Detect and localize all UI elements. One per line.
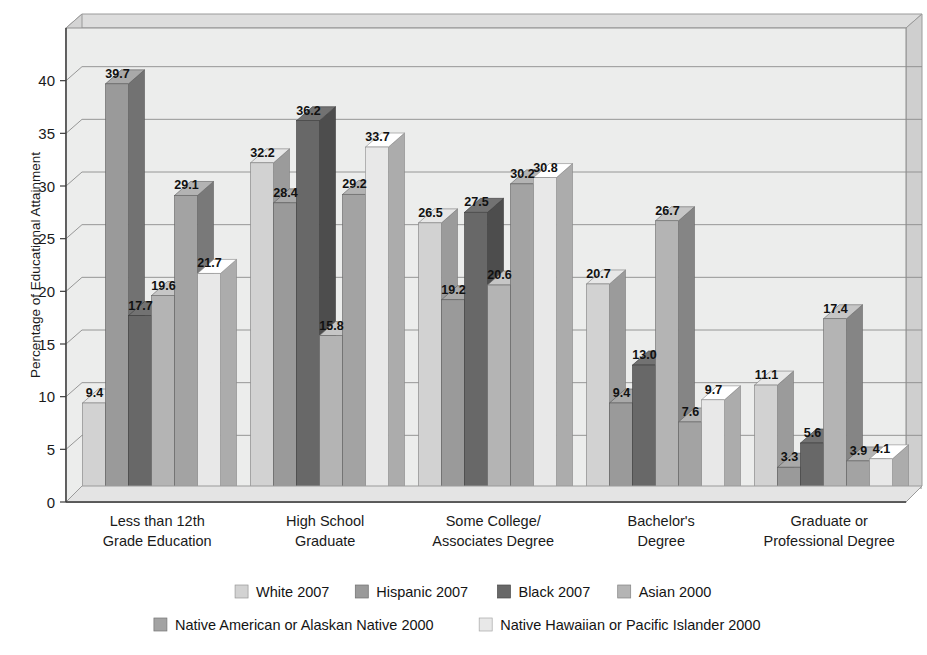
y-axis-title: Percentage of Educational Attainment xyxy=(28,152,43,378)
category-label-line: Professional Degree xyxy=(764,533,895,549)
bar-value-label: 17.4 xyxy=(823,302,847,316)
bar-value-label: 30.8 xyxy=(533,161,557,175)
bar xyxy=(198,259,237,502)
bar-side-face xyxy=(221,259,237,502)
legend-label: White 2007 xyxy=(256,584,329,600)
legend-swatch xyxy=(618,585,631,598)
category-label-line: Graduate xyxy=(295,533,355,549)
legend-label: Black 2007 xyxy=(518,584,590,600)
bar-front-face xyxy=(755,385,778,502)
bar-value-label: 4.1 xyxy=(873,442,890,456)
y-axis-tick-label: 35 xyxy=(38,125,55,142)
bar-value-label: 3.9 xyxy=(850,444,867,458)
educational-attainment-bar-chart: 0510152025303540 Percentage of Education… xyxy=(0,0,927,655)
bar-value-label: 36.2 xyxy=(296,104,320,118)
category-label-line: High School xyxy=(286,513,364,529)
bar-front-face xyxy=(465,212,488,502)
category-label-line: Associates Degree xyxy=(432,533,554,549)
bar-value-label: 7.6 xyxy=(682,405,699,419)
legend-swatch xyxy=(355,585,368,598)
bar-value-label: 26.5 xyxy=(418,206,442,220)
chart-canvas: 0510152025303540 Percentage of Education… xyxy=(0,0,927,655)
bar-front-face xyxy=(633,365,656,502)
bar-value-label: 29.1 xyxy=(174,178,198,192)
category-label-line: Degree xyxy=(637,533,685,549)
y-axis-tick-label: 5 xyxy=(47,441,55,458)
bar xyxy=(366,133,405,502)
plot-floor-face xyxy=(66,486,922,502)
bar-value-label: 30.2 xyxy=(510,167,534,181)
category-label-line: Less than 12th xyxy=(110,513,205,529)
category-label-line: Grade Education xyxy=(103,533,212,549)
category-label-line: Bachelor's xyxy=(628,513,695,529)
bar-value-label: 3.3 xyxy=(781,450,798,464)
plot-wall-top-face xyxy=(66,14,922,28)
bar-front-face xyxy=(274,203,297,502)
legend-label: Asian 2000 xyxy=(639,584,712,600)
legend-label: Native Hawaiian or Pacific Islander 2000 xyxy=(500,617,760,633)
bar-front-face xyxy=(488,285,511,502)
bar-front-face xyxy=(251,163,274,502)
bar-value-label: 5.6 xyxy=(804,426,821,440)
legend-item[interactable]: Native American or Alaskan Native 2000 xyxy=(154,617,434,633)
bar-front-face xyxy=(511,184,534,502)
bar xyxy=(702,386,741,502)
bar-value-label: 9.4 xyxy=(86,386,103,400)
bar-side-face xyxy=(557,164,573,502)
bar-front-face xyxy=(198,273,221,502)
bar-front-face xyxy=(297,121,320,502)
bar-front-face xyxy=(366,147,389,502)
category-label-line: Graduate or xyxy=(791,513,869,529)
bar-front-face xyxy=(175,195,198,502)
y-axis-tick-label: 40 xyxy=(38,72,55,89)
bar-value-label: 21.7 xyxy=(197,256,221,270)
bar-value-label: 9.4 xyxy=(613,386,630,400)
legend-swatch xyxy=(497,585,510,598)
bar-side-face xyxy=(389,133,405,502)
bar-value-label: 20.6 xyxy=(487,268,511,282)
bar-value-label: 26.7 xyxy=(655,204,679,218)
legend-item[interactable]: Native Hawaiian or Pacific Islander 2000 xyxy=(479,617,760,633)
bar-front-face xyxy=(442,300,465,502)
bar-value-label: 27.5 xyxy=(464,195,488,209)
bar-value-label: 20.7 xyxy=(586,267,610,281)
bar-value-label: 32.2 xyxy=(250,146,274,160)
y-axis-tick-label: 10 xyxy=(38,388,55,405)
legend-swatch xyxy=(235,585,248,598)
bar-value-label: 33.7 xyxy=(365,130,389,144)
bar-front-face xyxy=(129,316,152,502)
bar-side-face xyxy=(725,386,741,502)
legend-swatch xyxy=(154,618,167,631)
bar-front-face xyxy=(587,284,610,502)
y-axis-tick-label: 0 xyxy=(47,494,55,511)
bar-value-label: 15.8 xyxy=(319,319,343,333)
bar-value-label: 29.2 xyxy=(342,177,366,191)
bar-value-label: 13.0 xyxy=(632,348,656,362)
bar xyxy=(534,164,573,502)
bar-value-label: 17.7 xyxy=(128,299,152,313)
bar-value-label: 28.4 xyxy=(273,186,297,200)
bar-front-face xyxy=(656,221,679,502)
bar-front-face xyxy=(152,296,175,502)
category-label-line: Some College/ xyxy=(446,513,542,529)
legend-label: Native American or Alaskan Native 2000 xyxy=(175,617,434,633)
bar-front-face xyxy=(419,223,442,502)
bar-value-label: 9.7 xyxy=(705,383,722,397)
bar-value-label: 19.2 xyxy=(441,283,465,297)
bar-value-label: 19.6 xyxy=(151,279,175,293)
bar-value-label: 11.1 xyxy=(755,368,779,382)
bar-value-label: 39.7 xyxy=(105,67,129,81)
bar-front-face xyxy=(534,178,557,502)
legend-swatch xyxy=(479,618,492,631)
bar-front-face xyxy=(343,194,366,502)
plot-wall-right-face xyxy=(906,14,922,502)
legend-label: Hispanic 2007 xyxy=(376,584,468,600)
bar-front-face xyxy=(106,84,129,502)
bar-front-face xyxy=(824,319,847,502)
bar-front-face xyxy=(320,336,343,502)
